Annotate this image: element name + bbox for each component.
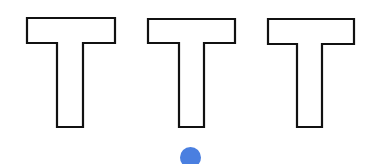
letter-shapes bbox=[0, 0, 375, 164]
blue-dot[interactable] bbox=[180, 147, 201, 164]
t-outline-1 bbox=[27, 18, 115, 127]
t-outline-2 bbox=[148, 19, 235, 127]
canvas: T T T bbox=[0, 0, 375, 164]
t-outline-3 bbox=[268, 19, 354, 127]
